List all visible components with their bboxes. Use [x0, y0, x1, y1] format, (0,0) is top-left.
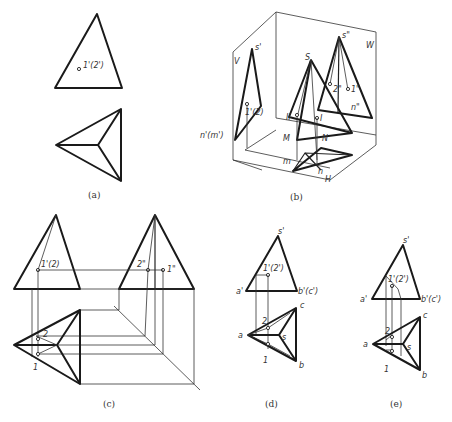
w-point-1-label: 1" [351, 85, 360, 94]
caption-a: (a) [88, 190, 100, 200]
plane-w-label: W [366, 41, 375, 50]
w-line-1 [339, 37, 348, 90]
apex-s-label: S [305, 53, 310, 62]
pyramid-left-edges [297, 60, 352, 140]
c-front-triangle [14, 215, 80, 289]
panel-c: 1'(2) 2" 1" 2 1 (c) [14, 215, 200, 409]
point-ii-label: II [286, 113, 291, 122]
h-m-label: m [283, 157, 291, 166]
plane-v-label: V [234, 57, 240, 66]
e-top-point-2 [390, 335, 393, 338]
v-point-1-marker [245, 102, 248, 105]
w-point-2-marker [328, 82, 331, 85]
w-n-label: n" [351, 103, 360, 112]
e-top-label-c: c [423, 311, 428, 320]
d-bc-label: b'(c') [298, 287, 318, 296]
e-top-label-a: a [363, 340, 368, 349]
plane-h-label: H [325, 175, 331, 184]
caption-e: (e) [390, 399, 402, 409]
pyramid-inner-line [311, 60, 317, 160]
d-top-point-2 [266, 326, 269, 329]
point-1-label: 1'(2') [83, 61, 104, 70]
c-top-line-1 [38, 345, 57, 354]
projection-diagram: 1'(2') (a) V W H s' 1'(2) n'(m') s" 2" [0, 0, 452, 422]
w-apex-label: s" [342, 31, 350, 40]
d-top-label-s: s [282, 333, 286, 342]
d-top-label-a: a [238, 331, 243, 340]
c-top-point-2 [36, 337, 39, 340]
c-front-point-label: 1'(2) [41, 260, 60, 269]
point-n-label: N [322, 134, 328, 143]
panel-a: 1'(2') (a) [55, 14, 122, 200]
v-apex-label: s' [255, 43, 261, 52]
point-m-label: M [283, 134, 290, 143]
panel-d: s' 1'(2') a' b'(c') 2 1 a b c s (d) [236, 227, 318, 409]
w-projection-triangle [318, 37, 372, 118]
c-miter-line [114, 306, 200, 390]
e-top-label-2: 2 [385, 327, 390, 336]
panel-e: s' 1'(2') a' b'(c') 2 1 a b c s (e) [360, 236, 441, 409]
d-top-label-2: 2 [262, 317, 267, 326]
w-point-1-marker [346, 87, 349, 90]
e-a-label: a' [360, 295, 367, 304]
point-ii-marker [295, 113, 298, 116]
point-1-marker [77, 67, 80, 70]
c-side-drop-2 [145, 270, 148, 336]
c-side-triangle [119, 215, 194, 289]
front-view-triangle [55, 14, 122, 88]
e-front-triangle [372, 245, 420, 299]
point-i-label: I [320, 114, 323, 123]
v-base-label: n'(m') [200, 131, 224, 140]
c-top-label-1: 1 [33, 363, 38, 372]
h-plane-inner-edge [245, 130, 276, 150]
d-a-label: a' [236, 287, 243, 296]
d-top-label-c: c [300, 301, 305, 310]
c-top-triangle [14, 310, 80, 384]
c-side-label-1: 1" [167, 265, 176, 274]
e-top-label-b: b [422, 371, 427, 380]
d-apex-label: s' [278, 227, 284, 236]
caption-d: (d) [265, 399, 278, 409]
panel-b: V W H s' 1'(2) n'(m') s" 2" 1" n" S II I… [200, 12, 376, 202]
e-apex-label: s' [403, 236, 409, 245]
h-n-label: n [318, 167, 323, 176]
d-top-label-b: b [299, 361, 304, 370]
caption-b: (b) [290, 192, 303, 202]
d-top-label-1: 1 [263, 356, 268, 365]
v-point-label: 1'(2) [245, 108, 264, 117]
c-side-label-2: 2" [137, 260, 146, 269]
d-top-point-1 [266, 342, 269, 345]
e-point-label: 1'(2') [388, 275, 409, 284]
w-point-2-label: 2" [333, 85, 342, 94]
e-top-label-1: 1 [384, 365, 389, 374]
c-top-point-1 [36, 352, 39, 355]
c-top-label-2: 2 [43, 330, 48, 339]
caption-c: (c) [103, 399, 115, 409]
e-bc-label: b'(c') [421, 295, 441, 304]
e-top-label-s: s [407, 343, 411, 352]
e-top-point-1 [390, 349, 393, 352]
w-projection-center [338, 37, 339, 112]
d-point-label: 1'(2') [263, 264, 284, 273]
